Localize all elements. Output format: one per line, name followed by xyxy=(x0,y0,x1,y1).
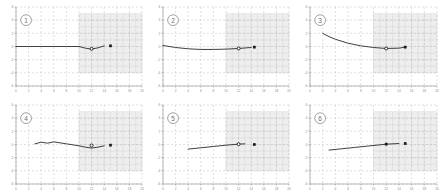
x-tick-label: 16 xyxy=(410,187,414,191)
x-tick-label: 4 xyxy=(40,187,42,191)
x-tick-label: 14 xyxy=(249,89,253,93)
x-tick-label: 6 xyxy=(53,187,55,191)
chart-panel-4[interactable]: 02468101214161820-6-4-202464 xyxy=(0,98,147,196)
x-tick-label: 14 xyxy=(102,187,106,191)
data-point-marker-filled[interactable] xyxy=(109,44,112,47)
x-tick-label: 18 xyxy=(128,187,132,191)
x-tick-label: 0 xyxy=(309,187,311,191)
x-tick-label: 18 xyxy=(275,187,279,191)
y-tick-label: 0 xyxy=(12,143,14,147)
y-tick-label: -2 xyxy=(158,156,161,160)
data-point-marker-filled[interactable] xyxy=(404,46,407,49)
y-tick-label: 0 xyxy=(159,45,161,49)
x-tick-label: 12 xyxy=(90,89,94,93)
x-tick-label: 6 xyxy=(200,187,202,191)
x-tick-label: 2 xyxy=(28,89,30,93)
panel-number-label: 1 xyxy=(24,17,28,24)
y-tick-label: -6 xyxy=(158,182,161,186)
x-tick-label: 12 xyxy=(237,89,241,93)
data-point-marker-open[interactable] xyxy=(237,143,240,146)
x-tick-label: 4 xyxy=(40,89,42,93)
x-tick-label: 18 xyxy=(423,187,427,191)
x-tick-label: 10 xyxy=(224,89,228,93)
y-tick-label: -2 xyxy=(11,58,14,62)
y-tick-label: 4 xyxy=(306,18,308,22)
data-point-marker-filled[interactable] xyxy=(404,142,407,145)
y-tick-label: 0 xyxy=(306,45,308,49)
x-tick-label: 16 xyxy=(262,89,266,93)
x-tick-label: 4 xyxy=(335,187,337,191)
y-tick-label: -4 xyxy=(305,71,308,75)
x-tick-label: 12 xyxy=(384,187,388,191)
panel-number-label: 2 xyxy=(171,17,175,24)
x-tick-label: 10 xyxy=(224,187,228,191)
plot-area-5: 02468101214161820-6-4-202465 xyxy=(147,98,294,196)
chart-panel-1[interactable]: 02468101214161820-6-4-202461 xyxy=(0,0,147,98)
y-tick-label: 0 xyxy=(12,45,14,49)
data-point-marker-open[interactable] xyxy=(90,144,93,147)
y-tick-label: -2 xyxy=(11,156,14,160)
data-point-marker-filled[interactable] xyxy=(385,143,388,146)
x-tick-label: 2 xyxy=(175,89,177,93)
data-point-marker-open[interactable] xyxy=(237,47,240,50)
y-tick-label: -6 xyxy=(305,84,308,88)
y-tick-label: 6 xyxy=(306,5,308,9)
y-tick-label: 6 xyxy=(306,103,308,107)
chart-panel-5[interactable]: 02468101214161820-6-4-202465 xyxy=(147,98,294,196)
y-tick-label: 4 xyxy=(12,18,14,22)
x-tick-label: 10 xyxy=(77,187,81,191)
x-tick-label: 0 xyxy=(15,89,17,93)
plot-area-6: 02468101214161820-6-4-202466 xyxy=(294,98,442,196)
y-tick-label: 2 xyxy=(159,130,161,134)
y-tick-label: -6 xyxy=(11,84,14,88)
data-point-marker-open[interactable] xyxy=(385,47,388,50)
data-point-marker-filled[interactable] xyxy=(109,144,112,147)
x-tick-label: 2 xyxy=(28,187,30,191)
x-tick-label: 14 xyxy=(397,187,401,191)
y-tick-label: 6 xyxy=(159,5,161,9)
x-tick-label: 4 xyxy=(335,89,337,93)
chart-panel-6[interactable]: 02468101214161820-6-4-202466 xyxy=(294,98,442,196)
plot-area-2: 02468101214161820-6-4-202462 xyxy=(147,0,294,98)
chart-panel-2[interactable]: 02468101214161820-6-4-202462 xyxy=(147,0,294,98)
x-tick-label: 6 xyxy=(347,89,349,93)
y-tick-label: 4 xyxy=(159,18,161,22)
panel-grid: 02468101214161820-6-4-202461 02468101214… xyxy=(0,0,442,196)
x-tick-label: 12 xyxy=(384,89,388,93)
x-tick-label: 8 xyxy=(360,89,362,93)
x-tick-label: 0 xyxy=(15,187,17,191)
x-tick-label: 8 xyxy=(360,187,362,191)
y-tick-label: 6 xyxy=(12,103,14,107)
x-tick-label: 20 xyxy=(435,187,439,191)
y-tick-label: 2 xyxy=(12,130,14,134)
y-tick-label: 2 xyxy=(306,130,308,134)
x-tick-label: 0 xyxy=(162,187,164,191)
y-tick-label: -2 xyxy=(158,58,161,62)
x-tick-label: 18 xyxy=(128,89,132,93)
plot-area-1: 02468101214161820-6-4-202461 xyxy=(0,0,147,98)
y-tick-label: -6 xyxy=(158,84,161,88)
x-tick-label: 12 xyxy=(90,187,94,191)
y-tick-label: 4 xyxy=(159,116,161,120)
y-tick-label: -6 xyxy=(305,182,308,186)
plot-area-3: 02468101214161820-6-4-202463 xyxy=(294,0,442,98)
data-point-marker-open[interactable] xyxy=(90,47,93,50)
data-point-marker-filled[interactable] xyxy=(253,46,256,49)
x-tick-label: 14 xyxy=(102,89,106,93)
x-tick-label: 16 xyxy=(262,187,266,191)
x-tick-label: 8 xyxy=(213,187,215,191)
panel-number-label: 3 xyxy=(318,17,322,24)
plot-area-4: 02468101214161820-6-4-202464 xyxy=(0,98,147,196)
x-tick-label: 14 xyxy=(249,187,253,191)
data-point-marker-filled[interactable] xyxy=(253,143,256,146)
y-tick-label: 6 xyxy=(159,103,161,107)
chart-panel-3[interactable]: 02468101214161820-6-4-202463 xyxy=(294,0,442,98)
x-tick-label: 12 xyxy=(237,187,241,191)
x-tick-label: 6 xyxy=(53,89,55,93)
x-tick-label: 8 xyxy=(213,89,215,93)
x-tick-label: 6 xyxy=(200,89,202,93)
panel-number-label: 6 xyxy=(318,115,322,122)
x-tick-label: 18 xyxy=(423,89,427,93)
y-tick-label: -6 xyxy=(11,182,14,186)
x-tick-label: 4 xyxy=(187,187,189,191)
